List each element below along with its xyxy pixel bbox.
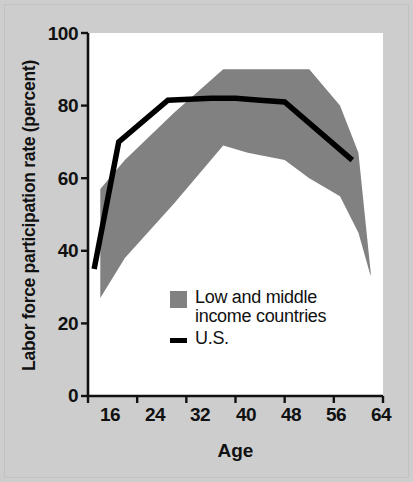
x-tick-label-48: 48	[269, 404, 313, 426]
band-low-middle-income-countries	[100, 69, 370, 298]
x-tick-label-40: 40	[224, 404, 268, 426]
band-swatch-icon	[170, 291, 187, 308]
x-axis-title: Age	[88, 440, 383, 462]
legend-label-line1: Low and middle	[195, 288, 326, 307]
legend-label-line2: income countries	[195, 307, 326, 326]
legend-item-label: Low and middle income countries	[195, 288, 326, 327]
legend-label-line1: U.S.	[195, 329, 229, 348]
legend-item-label: U.S.	[195, 329, 229, 348]
y-axis-title: Labor force participation rate (percent)	[19, 36, 40, 396]
line-swatch-icon	[170, 338, 187, 343]
chart-figure: 100 80 60 40 20 0 16 24 32 40 48 56 64 L…	[0, 0, 413, 482]
legend-item-low-middle-income: Low and middle income countries	[170, 288, 380, 327]
x-tick-label-56: 56	[314, 404, 358, 426]
chart-legend: Low and middle income countries U.S.	[170, 288, 380, 350]
x-tick-label-16: 16	[88, 404, 132, 426]
x-tick-label-24: 24	[133, 404, 177, 426]
legend-item-us: U.S.	[170, 329, 380, 348]
x-tick-label-64: 64	[359, 404, 403, 426]
x-tick-label-32: 32	[178, 404, 222, 426]
